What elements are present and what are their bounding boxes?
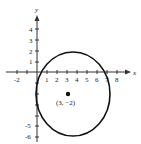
y-axis-label: y bbox=[34, 6, 39, 14]
center-label: (3, −2) bbox=[56, 99, 76, 107]
x-tick-label: -2 bbox=[14, 76, 20, 84]
x-tick-label: 2 bbox=[55, 76, 59, 84]
y-tick-label: 2 bbox=[29, 48, 33, 56]
x-tick-label: 4 bbox=[75, 76, 79, 84]
x-tick-label: 8 bbox=[115, 76, 119, 84]
x-tick-label: 6 bbox=[95, 76, 99, 84]
y-tick-label: 1 bbox=[29, 58, 33, 66]
x-axis-label: x bbox=[132, 69, 137, 77]
x-tick-label: 3 bbox=[65, 76, 69, 84]
center-point bbox=[66, 92, 70, 96]
y-tick-label: -5 bbox=[25, 122, 31, 130]
y-tick-label: -6 bbox=[25, 133, 31, 141]
y-tick-label: 4 bbox=[29, 26, 33, 34]
x-axis-arrow bbox=[125, 70, 131, 75]
circle-graph: x y -2 1 2 3 4 5 6 7 8 1 2 3 4 -5 -6 (3,… bbox=[0, 0, 141, 144]
y-axis-arrow bbox=[35, 15, 40, 21]
x-tick-label: 1 bbox=[45, 76, 49, 84]
x-tick-label: 5 bbox=[85, 76, 89, 84]
circle-curve bbox=[36, 52, 110, 136]
y-tick-label: 3 bbox=[29, 37, 33, 45]
